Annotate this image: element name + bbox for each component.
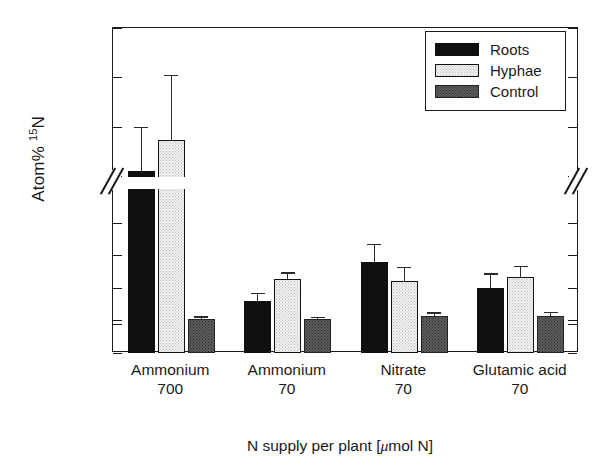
error-cap-hyphae-group-1 bbox=[164, 75, 178, 76]
error-bar-roots-group-4 bbox=[490, 273, 491, 288]
y-tick-0-80 bbox=[113, 127, 122, 128]
x-group-dose-4: 70 bbox=[440, 379, 600, 398]
legend: RootsHyphaeControl bbox=[425, 31, 566, 111]
axis-break-bar-mask-1-hyphae bbox=[157, 177, 186, 189]
legend-swatch-control bbox=[435, 85, 479, 98]
legend-swatch-hyphae bbox=[435, 64, 479, 77]
axis-break-gap-left bbox=[107, 170, 121, 190]
legend-label-roots: Roots bbox=[490, 42, 529, 57]
legend-label-hyphae: Hyphae bbox=[490, 63, 542, 78]
legend-item-hyphae: Hyphae bbox=[435, 60, 556, 81]
error-cap-hyphae-group-3 bbox=[397, 267, 411, 268]
y-axis-title-tail: N bbox=[29, 116, 48, 128]
y-tick-0-37 bbox=[113, 288, 122, 289]
bar-hyphae-group-1 bbox=[158, 140, 185, 353]
y-tick-0-40 bbox=[113, 324, 122, 325]
bar-roots-group-1 bbox=[128, 171, 155, 353]
legend-item-roots: Roots bbox=[435, 39, 556, 60]
y-tick-0-38 bbox=[568, 255, 577, 256]
bar-control-group-3 bbox=[421, 316, 448, 353]
x-group-name-4: Glutamic acid bbox=[440, 360, 600, 379]
error-bar-roots-group-3 bbox=[374, 244, 375, 262]
error-cap-roots-group-1 bbox=[134, 127, 148, 128]
bar-roots-group-4 bbox=[477, 288, 504, 353]
error-bar-hyphae-group-3 bbox=[404, 267, 405, 282]
y-axis-title-base: Atom% bbox=[29, 141, 48, 202]
bar-roots-group-3 bbox=[361, 262, 388, 353]
error-cap-control-group-3 bbox=[427, 312, 441, 313]
y-tick-0-36 bbox=[568, 320, 577, 321]
error-cap-roots-group-4 bbox=[484, 273, 498, 274]
axis-break-gap-right bbox=[569, 170, 583, 190]
error-cap-roots-group-2 bbox=[251, 293, 265, 294]
chart-figure: Atom% 15N N supply per plant [μmol N] 0.… bbox=[0, 0, 602, 473]
x-axis-title: N supply per plant [μmol N] bbox=[110, 437, 570, 455]
legend-item-control: Control bbox=[435, 81, 556, 102]
error-cap-control-group-2 bbox=[311, 317, 325, 318]
error-cap-roots-group-3 bbox=[367, 244, 381, 245]
y-tick-0-35 bbox=[568, 353, 577, 354]
legend-label-control: Control bbox=[490, 84, 538, 99]
legend-swatch-roots bbox=[435, 43, 479, 56]
error-cap-hyphae-group-2 bbox=[281, 272, 295, 273]
y-tick-1-00 bbox=[113, 28, 122, 29]
y-tick-0-39 bbox=[568, 223, 577, 224]
bar-hyphae-group-3 bbox=[391, 281, 418, 353]
bar-control-group-1 bbox=[188, 319, 215, 353]
y-axis-title: Atom% 15N bbox=[27, 59, 49, 259]
y-axis-title-superscript: 15 bbox=[27, 128, 39, 141]
bar-hyphae-group-2 bbox=[274, 279, 301, 353]
y-tick-0-90 bbox=[113, 77, 122, 78]
y-tick-0-38 bbox=[113, 255, 122, 256]
y-tick-0-35 bbox=[113, 353, 122, 354]
bar-control-group-2 bbox=[304, 319, 331, 353]
error-bar-hyphae-group-1 bbox=[171, 75, 172, 140]
y-tick-0-37 bbox=[568, 288, 577, 289]
error-bar-hyphae-group-4 bbox=[520, 266, 521, 278]
error-cap-control-group-1 bbox=[194, 316, 208, 317]
y-tick-0-90 bbox=[568, 77, 577, 78]
bar-hyphae-group-4 bbox=[507, 277, 534, 353]
y-tick-0-40 bbox=[568, 324, 577, 325]
bar-roots-group-2 bbox=[244, 301, 271, 353]
y-tick-1-00 bbox=[568, 28, 577, 29]
y-tick-0-80 bbox=[568, 127, 577, 128]
error-cap-hyphae-group-4 bbox=[514, 266, 528, 267]
bar-control-group-4 bbox=[537, 316, 564, 353]
y-tick-0-36 bbox=[113, 320, 122, 321]
x-group-label-4: Glutamic acid70 bbox=[440, 360, 600, 398]
axis-break-bar-mask-1-roots bbox=[127, 177, 156, 189]
y-tick-0-39 bbox=[113, 223, 122, 224]
error-cap-control-group-4 bbox=[544, 312, 558, 313]
error-bar-roots-group-1 bbox=[141, 127, 142, 171]
